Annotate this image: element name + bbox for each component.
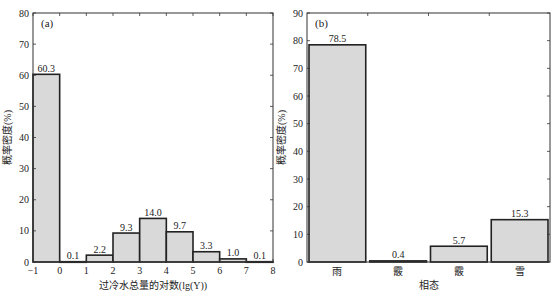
bar-value-label: 0.4	[392, 249, 405, 260]
y-tick-label: 40	[19, 132, 29, 143]
y-tick-label: 60	[19, 70, 29, 81]
bar	[491, 220, 548, 262]
y-tick-label: 60	[293, 91, 303, 102]
bar	[309, 45, 366, 262]
bar	[86, 255, 113, 262]
y-tick-label: 10	[19, 225, 29, 236]
x-tick-label: 4	[164, 265, 169, 276]
figure: 60.30.12.29.314.09.73.31.00.101020304050…	[0, 0, 557, 297]
x-tick-label: 0	[57, 265, 62, 276]
bar-value-label: 5.7	[453, 235, 466, 246]
bar	[113, 233, 140, 262]
x-tick-label: 3	[137, 265, 142, 276]
x-axis-title: 相态	[419, 279, 439, 291]
x-tick-label: −1	[28, 265, 39, 276]
y-tick-label: 20	[19, 194, 29, 205]
y-tick-label: 20	[293, 201, 303, 212]
x-tick-label: 6	[217, 265, 222, 276]
x-tick-label: 5	[191, 265, 196, 276]
x-category-label: 雨	[332, 266, 342, 277]
x-category-label: 雪	[515, 266, 525, 277]
x-category-label: 霰	[393, 266, 403, 277]
x-tick-label: 7	[244, 265, 249, 276]
y-tick-label: 50	[293, 118, 303, 129]
y-tick-label: 30	[19, 163, 29, 174]
panel-label: (b)	[315, 17, 328, 30]
x-tick-label: 2	[111, 265, 116, 276]
y-tick-label: 0	[298, 257, 303, 268]
y-tick-label: 80	[19, 8, 29, 19]
bar	[33, 74, 60, 262]
y-tick-label: 30	[293, 174, 303, 185]
bar-value-label: 9.7	[173, 220, 186, 231]
bar-value-label: 2.2	[93, 244, 106, 255]
bar-value-label: 0.1	[253, 250, 266, 261]
bar-value-label: 3.3	[200, 240, 213, 251]
x-tick-label: 8	[271, 265, 276, 276]
y-axis-title: 概率密度(%)	[275, 110, 288, 165]
bar-value-label: 14.0	[144, 207, 162, 218]
y-tick-label: 40	[293, 146, 303, 157]
y-tick-label: 80	[293, 35, 303, 46]
bar	[431, 246, 488, 262]
panel-label: (a)	[41, 17, 54, 30]
bar	[140, 218, 167, 262]
y-tick-label: 90	[293, 8, 303, 19]
x-tick-label: 1	[84, 265, 89, 276]
bar	[193, 252, 220, 262]
y-tick-label: 70	[293, 63, 303, 74]
bar-value-label: 78.5	[329, 33, 347, 44]
x-category-label: 霰	[454, 266, 464, 277]
bar-value-label: 9.3	[120, 222, 133, 233]
bar-value-label: 0.1	[67, 250, 80, 261]
y-axis-title: 概率密度(%)	[1, 110, 14, 165]
y-tick-label: 50	[19, 101, 29, 112]
bar-value-label: 1.0	[227, 247, 240, 258]
x-axis-title: 过冷水总量的对数(lg(Y))	[99, 279, 207, 292]
bar-value-label: 15.3	[511, 208, 529, 219]
y-tick-label: 70	[19, 39, 29, 50]
y-tick-label: 10	[293, 229, 303, 240]
bar-value-label: 60.3	[38, 63, 56, 74]
bar	[166, 232, 193, 262]
